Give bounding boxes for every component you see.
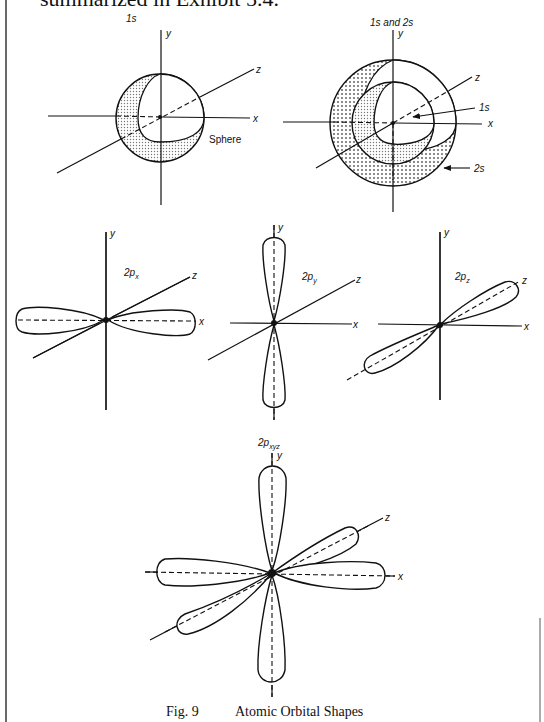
nucleus — [268, 569, 276, 577]
panel-2pxyz: y z x 2pxyz — [145, 437, 404, 697]
atomic-orbital-figure: summarized in Exhibit 5.4. 1s y z x Sphe… — [0, 0, 544, 722]
label-inner-1s: 1s — [479, 102, 490, 113]
caption-title: Atomic Orbital Shapes — [235, 704, 363, 719]
orbital-label-2pxyz: 2pxyz — [257, 437, 280, 451]
z-axis-front — [57, 139, 121, 173]
sphere-1s-cutaway — [138, 74, 204, 142]
caption-number: Fig. 9 — [166, 704, 199, 719]
nucleus — [158, 115, 162, 119]
z-axis-back — [200, 69, 254, 97]
nucleus — [437, 322, 443, 328]
axis-label-x: x — [487, 118, 494, 129]
lobe-x-positive — [108, 310, 195, 335]
z-axis — [208, 280, 355, 360]
lobe-z-positive — [441, 281, 518, 324]
axis-label-x: x — [252, 113, 259, 124]
axis-label-z: z — [191, 270, 197, 281]
sphere-label: Sphere — [209, 134, 242, 145]
label-outer-2s: 2s — [473, 163, 485, 174]
axis-label-x: x — [352, 319, 359, 330]
panel-2pz: y z x 2pz — [347, 227, 530, 400]
axis-label-x: x — [523, 321, 530, 332]
clipped-header-text: summarized in Exhibit 5.4. — [40, 0, 279, 11]
panel-1s2s-title: 1s and 2s — [370, 17, 413, 28]
panel-1s: 1s y z x Sphere — [48, 13, 261, 205]
orbital-label-2py: 2py — [301, 271, 317, 285]
figure-page: summarized in Exhibit 5.4. 1s y z x Sphe… — [0, 0, 544, 722]
lobe-z-negative — [364, 325, 439, 373]
nucleus — [391, 121, 395, 125]
axis-label-z: z — [355, 274, 361, 285]
z-axis-back — [450, 77, 472, 90]
axis-label-x: x — [397, 571, 404, 582]
axis-label-y: y — [397, 28, 404, 39]
x-axis — [378, 324, 522, 326]
nucleus — [271, 320, 277, 326]
axis-label-y: y — [277, 222, 284, 233]
axis-label-x: x — [198, 316, 205, 327]
axis-label-z: z — [384, 512, 390, 523]
axis-label-y: y — [165, 28, 172, 39]
panel-1s-2s: 1s and 2s y z x 1s 2s — [283, 17, 494, 212]
orbital-label-2px: 2px — [123, 267, 139, 280]
figure-caption: Fig. 9 Atomic Orbital Shapes — [166, 704, 363, 719]
axis-label-y: y — [276, 450, 283, 461]
panel-1s-title: 1s — [126, 13, 137, 24]
panel-2px: y z x 2px — [16, 228, 205, 410]
nucleus — [103, 317, 109, 323]
axis-label-y: y — [443, 227, 450, 238]
axis-label-z: z — [474, 72, 480, 83]
panel-2py: y z x 2py — [208, 222, 361, 420]
x-axis — [230, 323, 352, 324]
axis-label-y: y — [109, 228, 116, 239]
orbital-label-2pz: 2pz — [454, 271, 470, 284]
axis-label-z: z — [521, 275, 527, 286]
axis-label-z: z — [255, 64, 261, 75]
